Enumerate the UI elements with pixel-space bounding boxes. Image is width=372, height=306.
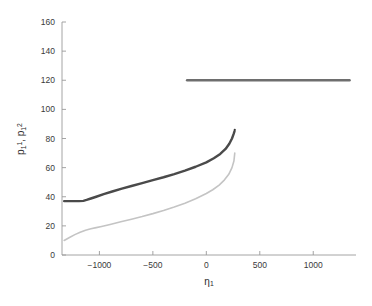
series-line [64, 153, 235, 240]
y-tick-label: 0 [0, 251, 55, 260]
x-tick-label: 500 [253, 261, 267, 270]
y-tick-label: 60 [0, 163, 55, 172]
x-tick-label: −500 [143, 261, 162, 270]
y-tick-label: 40 [0, 193, 55, 202]
axis-ticks [62, 22, 313, 255]
y-tick-label: 120 [0, 76, 55, 85]
data-series-layer [64, 80, 349, 240]
x-tick-label: 0 [204, 261, 209, 270]
axis-lines [62, 22, 356, 255]
data-point-marker [234, 129, 236, 131]
y-tick-label: 140 [0, 47, 55, 56]
y-tick-label: 20 [0, 222, 55, 231]
y-tick-label: 100 [0, 105, 55, 114]
data-markers-layer [234, 129, 236, 131]
x-tick-label: −1000 [87, 261, 111, 270]
figure-container: 020406080100120140160 −1000−50005001000 … [0, 0, 372, 306]
y-tick-label: 160 [0, 18, 55, 27]
x-tick-label: 1000 [304, 261, 323, 270]
y-axis-title: p11, p12 [16, 123, 27, 155]
series-line [64, 131, 234, 201]
x-axis-title: η1 [204, 277, 213, 288]
